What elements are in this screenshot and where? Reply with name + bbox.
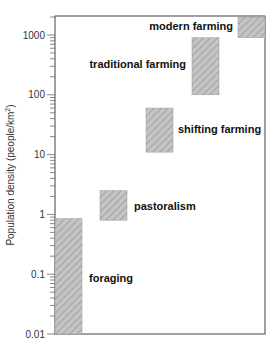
y-tick-label: 100 <box>28 89 45 100</box>
y-axis-label: Population density (people/km2) <box>4 104 16 245</box>
range-bar-traditional-farming <box>192 38 219 95</box>
bar-label: pastoralism <box>134 200 196 212</box>
bar-label: shifting farming <box>178 123 261 135</box>
range-bar-foraging <box>55 219 82 334</box>
y-tick-label: 0.1 <box>31 269 45 280</box>
population-density-chart: 10001001010.10.01foragingpastoralismshif… <box>0 0 279 354</box>
bar-label: modern farming <box>149 20 233 32</box>
range-bar-modern-farming <box>238 17 265 38</box>
range-bar-pastoralism <box>100 191 127 221</box>
y-tick-label: 10 <box>34 149 46 160</box>
bar-label: foraging <box>89 272 133 284</box>
y-tick-label: 0.01 <box>26 329 46 340</box>
plot-area: 10001001010.10.01foragingpastoralismshif… <box>23 16 265 340</box>
bar-label: traditional farming <box>89 58 186 70</box>
range-bar-shifting-farming <box>146 108 173 152</box>
y-tick-label: 1000 <box>23 30 46 41</box>
y-tick-label: 1 <box>39 209 45 220</box>
